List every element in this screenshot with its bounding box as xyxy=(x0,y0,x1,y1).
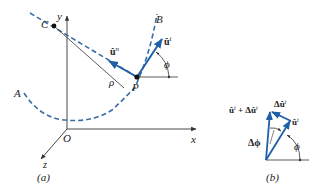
normal-unit-vector xyxy=(109,61,137,77)
point-label: P xyxy=(131,81,139,93)
b-tangent-vector-label: ût xyxy=(292,117,299,127)
center-label: C xyxy=(41,18,49,30)
delta-phi-label: Δϕ xyxy=(248,137,261,148)
phi-label: ϕ xyxy=(164,58,170,70)
z-axis-label: z xyxy=(42,159,47,170)
y-axis-label: y xyxy=(56,10,62,22)
panel-b: ût + Δût Δût ût Δϕ ϕ (b) xyxy=(229,99,309,184)
curve-start-label: A xyxy=(13,87,21,99)
delta-tangent-vector xyxy=(272,112,291,121)
phi-arc-tick xyxy=(168,76,170,78)
b-phi-arc-tick xyxy=(299,159,301,161)
x-axis-label: x xyxy=(190,133,196,145)
b-phi-label: ϕ xyxy=(294,140,300,152)
panel-b-caption: (b) xyxy=(266,171,279,184)
radius-label: ρ xyxy=(108,76,114,88)
panel-a-caption: (a) xyxy=(37,171,50,184)
center-of-curvature-point xyxy=(52,24,57,29)
particle-point xyxy=(134,74,139,79)
delta-phi-leader xyxy=(270,130,274,144)
sum-vector-label: ût + Δût xyxy=(229,105,258,115)
delta-phi-arc xyxy=(270,128,281,131)
origin-label: O xyxy=(63,132,71,144)
delta-vector-label: Δût xyxy=(274,99,287,109)
normal-vector-label: ûn xyxy=(110,45,120,57)
curve-end-label: B xyxy=(156,13,163,25)
curvilinear-motion-figure: y x z O A B ρ C ûn ût ϕ P (a) xyxy=(0,0,321,185)
tangent-vector-label: ût xyxy=(164,35,173,47)
panel-a: y x z O A B ρ C ûn ût ϕ P (a) xyxy=(13,10,196,184)
